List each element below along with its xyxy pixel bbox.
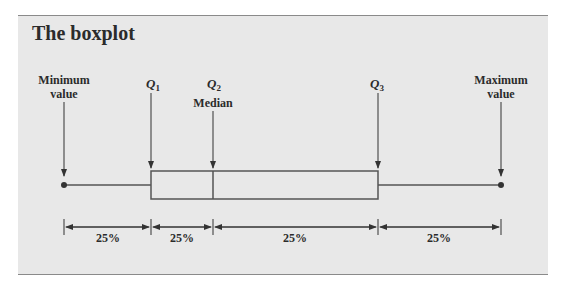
min-point xyxy=(61,182,67,188)
box xyxy=(151,171,378,199)
boxplot-diagram: Minimum value Q1 Q2 Median Q3 Maximum va… xyxy=(0,0,564,286)
max-point xyxy=(498,182,504,188)
label-maximum-line2: value xyxy=(487,87,515,101)
segment-label-4: 25% xyxy=(427,231,451,245)
segment-label-2: 25% xyxy=(170,231,194,245)
label-maximum-line1: Maximum xyxy=(474,73,527,87)
pointer-arrows xyxy=(64,93,501,176)
segment-label-1: 25% xyxy=(96,231,120,245)
label-q1: Q1 xyxy=(146,76,160,93)
label-minimum-line2: value xyxy=(50,87,78,101)
label-q2: Q2 xyxy=(207,76,221,93)
segment-label-3: 25% xyxy=(283,231,307,245)
label-median: Median xyxy=(193,96,233,110)
label-q3: Q3 xyxy=(370,76,384,93)
label-minimum-line1: Minimum xyxy=(38,73,89,87)
boxplot xyxy=(61,171,504,199)
